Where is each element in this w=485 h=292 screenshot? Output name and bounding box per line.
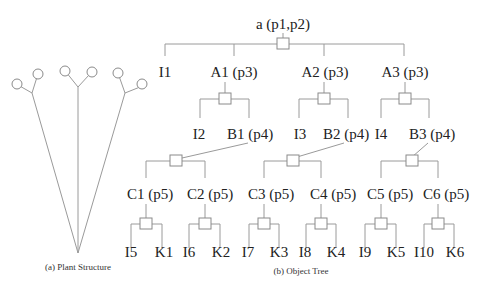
node-B3: B3 (p4) (409, 126, 455, 143)
c4-subtree (306, 204, 336, 248)
leaf-node-icon (60, 66, 70, 76)
junction-box (170, 155, 182, 166)
node-C6: C6 (p5) (423, 186, 469, 203)
c6-subtree (424, 204, 454, 248)
root-junction-box (277, 38, 289, 49)
object-tree: a (p1,p2) I1 A1 (p3) A2 (p3) A3 (p3) I2 (125, 16, 469, 276)
c5-subtree (365, 204, 396, 248)
node-K6: K6 (446, 244, 465, 260)
tree-caption: (b) Object Tree (274, 266, 329, 276)
node-I4: I4 (375, 126, 388, 142)
junction-box (406, 155, 418, 166)
node-C2: C2 (p5) (187, 186, 233, 203)
node-K5: K5 (387, 244, 405, 260)
node-B2: B2 (p4) (323, 126, 369, 143)
plant-structure: (a) Plant Structure (12, 66, 147, 272)
node-I6: I6 (183, 244, 196, 260)
leaf-node-icon (33, 69, 43, 79)
node-I3: I3 (294, 126, 307, 142)
node-C5: C5 (p5) (367, 186, 413, 203)
c1-subtree (131, 204, 162, 248)
node-A1: A1 (p3) (210, 64, 257, 81)
node-C3: C3 (p5) (248, 186, 294, 203)
node-I8: I8 (299, 244, 312, 260)
diagram-canvas: (a) Plant Structure a (p1,p2) I1 A1 (p3)… (0, 0, 485, 292)
junction-box (287, 155, 299, 166)
leaf-node-icon (12, 79, 22, 89)
node-C1: C1 (p5) (127, 186, 173, 203)
node-I7: I7 (242, 244, 255, 260)
node-I1: I1 (159, 64, 172, 80)
node-K4: K4 (327, 244, 346, 260)
node-A2: A2 (p3) (301, 64, 348, 81)
c2-subtree (189, 204, 220, 248)
leaf-node-icon (137, 79, 147, 89)
node-K3: K3 (270, 244, 288, 260)
node-I9: I9 (359, 244, 372, 260)
c3-subtree (249, 204, 279, 248)
node-K1: K1 (155, 244, 173, 260)
junction-box (399, 93, 411, 104)
leaf-node-icon (87, 67, 97, 77)
node-I5: I5 (125, 244, 138, 260)
plant-caption: (a) Plant Structure (45, 262, 111, 272)
junction-box (318, 93, 330, 104)
node-C4: C4 (p5) (310, 186, 356, 203)
node-B1: B1 (p4) (227, 126, 273, 143)
junction-box (219, 93, 231, 104)
node-K2: K2 (212, 244, 230, 260)
node-A3: A3 (p3) (381, 64, 428, 81)
root-node-label: a (p1,p2) (256, 16, 310, 33)
node-I10: I10 (414, 244, 434, 260)
leaf-node-icon (113, 68, 123, 78)
node-I2: I2 (193, 126, 206, 142)
